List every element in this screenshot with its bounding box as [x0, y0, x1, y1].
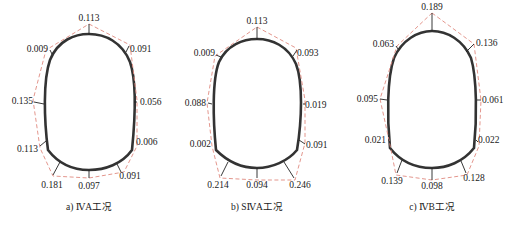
tick	[40, 141, 46, 146]
value-crown: 0.113	[246, 16, 267, 26]
value-invert: 0.094	[246, 180, 268, 190]
value-right-invert: 0.091	[119, 171, 141, 181]
value-right-invert: 0.128	[463, 173, 485, 183]
caption-b: b) SⅣA工况	[231, 202, 283, 213]
value-left-shoulder: 0.063	[373, 39, 395, 49]
value-left-invert: 0.214	[207, 180, 229, 190]
caption-a: a) ⅣA工况	[66, 202, 112, 213]
value-right-shoulder: 0.136	[476, 38, 498, 48]
tick	[126, 46, 129, 52]
value-invert: 0.097	[78, 181, 100, 191]
tick	[216, 55, 221, 57]
value-right-foot: 0.022	[478, 135, 500, 145]
panel-a: 0.113 0.009 0.091 0.135 0.056 0.113 0.00…	[12, 13, 162, 213]
value-left-invert: 0.181	[41, 180, 63, 190]
value-right-foot: 0.006	[136, 137, 158, 147]
value-invert: 0.098	[421, 181, 443, 191]
value-left-wall: 0.095	[357, 94, 379, 104]
value-right-shoulder: 0.091	[130, 44, 152, 54]
value-left-foot: 0.002	[190, 139, 212, 149]
tick	[461, 161, 466, 173]
tick	[34, 102, 44, 104]
caption-c: c) ⅣB工况	[409, 202, 455, 213]
tick	[221, 162, 228, 176]
tick	[380, 99, 387, 100]
value-left-wall: 0.088	[185, 98, 207, 108]
value-right-wall: 0.056	[140, 97, 162, 107]
tick	[53, 162, 60, 175]
tick	[284, 162, 294, 178]
tick	[299, 140, 305, 144]
value-right-wall: 0.061	[482, 95, 504, 105]
tunnel-lining-c	[388, 31, 476, 168]
tick	[466, 44, 474, 52]
value-crown: 0.189	[421, 2, 443, 12]
panel-c: 0.189 0.063 0.136 0.095 0.061 0.021 0.02…	[357, 2, 504, 213]
tick	[208, 103, 212, 104]
value-left-foot: 0.113	[17, 144, 38, 154]
tunnel-lining-a	[45, 34, 135, 170]
panel-b: 0.113 0.009 0.093 0.088 0.019 0.002 0.09…	[185, 16, 328, 213]
value-right-wall: 0.019	[305, 100, 327, 110]
value-left-shoulder: 0.009	[194, 48, 216, 58]
value-left-wall: 0.135	[12, 96, 34, 106]
value-left-invert: 0.139	[381, 176, 403, 186]
figure-canvas: 0.113 0.009 0.091 0.135 0.056 0.113 0.00…	[0, 0, 507, 227]
tick	[50, 50, 52, 54]
value-right-invert: 0.246	[289, 180, 311, 190]
tunnel-lining-b	[214, 39, 301, 168]
value-right-foot: 0.091	[306, 140, 328, 150]
tick	[397, 160, 402, 173]
value-crown: 0.113	[78, 13, 99, 23]
value-left-shoulder: 0.009	[27, 44, 49, 54]
value-right-shoulder: 0.093	[297, 48, 319, 58]
value-left-foot: 0.021	[365, 135, 387, 145]
